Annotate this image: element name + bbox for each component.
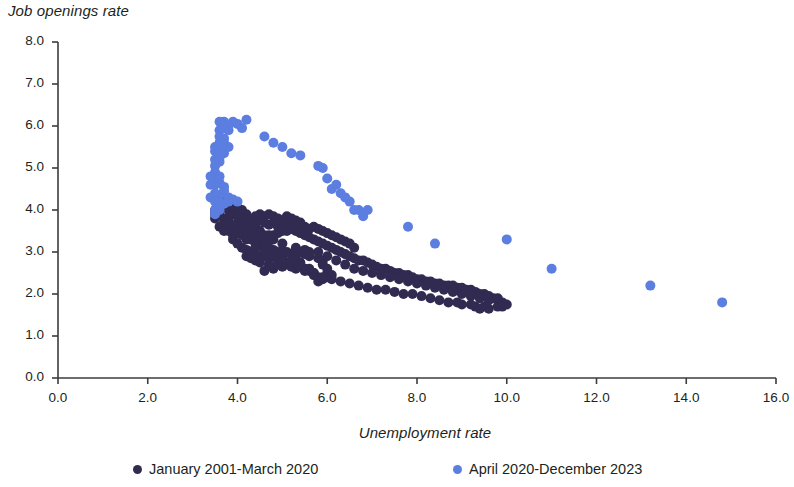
- data-point: [282, 211, 292, 221]
- legend: January 2001-March 2020 April 2020-Decem…: [0, 461, 794, 485]
- data-point: [717, 297, 727, 307]
- data-point: [331, 255, 341, 265]
- x-tick-label: 12.0: [572, 390, 622, 405]
- data-point: [394, 274, 404, 284]
- data-point: [340, 260, 350, 270]
- y-tick-label: 8.0: [10, 33, 44, 48]
- data-point: [233, 197, 243, 207]
- data-point: [277, 253, 287, 263]
- data-point: [268, 251, 278, 261]
- axis-ticks: [52, 42, 776, 384]
- data-point: [421, 281, 431, 291]
- data-point: [645, 281, 655, 291]
- data-point: [313, 161, 323, 171]
- plot-area: [0, 0, 794, 487]
- legend-label-historical: January 2001-March 2020: [149, 461, 318, 477]
- y-tick-label: 5.0: [10, 159, 44, 174]
- x-tick-label: 14.0: [661, 390, 711, 405]
- data-point: [295, 150, 305, 160]
- data-point: [412, 279, 422, 289]
- x-axis-title: Unemployment rate: [0, 424, 794, 441]
- data-point: [224, 142, 234, 152]
- y-tick-label: 6.0: [10, 117, 44, 132]
- data-point: [322, 174, 332, 184]
- data-point: [259, 132, 269, 142]
- data-point: [457, 289, 467, 299]
- data-point: [309, 268, 319, 278]
- data-point: [381, 285, 391, 295]
- data-point: [376, 270, 386, 280]
- data-point: [390, 287, 400, 297]
- x-tick-label: 0.0: [33, 390, 83, 405]
- data-point: [434, 295, 444, 305]
- data-point: [448, 287, 458, 297]
- legend-item-pandemic[interactable]: April 2020-December 2023: [453, 461, 642, 477]
- data-point: [443, 297, 453, 307]
- series-1: [206, 115, 728, 308]
- data-point: [345, 279, 355, 289]
- data-point: [466, 291, 476, 301]
- data-point: [336, 276, 346, 286]
- data-point: [416, 291, 426, 301]
- data-point: [430, 283, 440, 293]
- data-point: [363, 283, 373, 293]
- data-point: [268, 138, 278, 148]
- data-point: [430, 239, 440, 249]
- data-point: [286, 148, 296, 158]
- data-point: [327, 274, 337, 284]
- data-point: [300, 266, 310, 276]
- data-point: [502, 234, 512, 244]
- data-point: [313, 247, 323, 257]
- data-point: [439, 285, 449, 295]
- data-point: [425, 293, 435, 303]
- axes: [58, 42, 776, 378]
- y-tick-label: 3.0: [10, 243, 44, 258]
- legend-swatch-pandemic: [453, 465, 462, 474]
- y-tick-label: 4.0: [10, 201, 44, 216]
- data-point: [399, 289, 409, 299]
- x-axis-title-text: Unemployment rate: [359, 424, 492, 441]
- x-tick-label: 16.0: [751, 390, 794, 405]
- data-point: [367, 268, 377, 278]
- legend-label-pandemic: April 2020-December 2023: [469, 461, 642, 477]
- data-point: [493, 293, 503, 303]
- data-point: [349, 243, 359, 253]
- data-point: [250, 243, 260, 253]
- data-point: [484, 295, 494, 305]
- x-tick-label: 2.0: [123, 390, 173, 405]
- data-point: [340, 192, 350, 202]
- x-tick-label: 4.0: [213, 390, 263, 405]
- y-tick-label: 7.0: [10, 75, 44, 90]
- y-tick-label: 0.0: [10, 369, 44, 384]
- x-tick-label: 8.0: [392, 390, 442, 405]
- data-point: [547, 264, 557, 274]
- y-tick-label: 2.0: [10, 285, 44, 300]
- beveridge-curve-chart: Job openings rate 0.01.02.03.04.05.06.07…: [0, 0, 794, 487]
- data-point: [385, 272, 395, 282]
- legend-item-historical[interactable]: January 2001-March 2020: [133, 461, 318, 477]
- data-points: [206, 115, 728, 314]
- x-tick-label: 6.0: [302, 390, 352, 405]
- y-tick-label: 1.0: [10, 327, 44, 342]
- data-point: [313, 224, 323, 234]
- x-tick-label: 10.0: [482, 390, 532, 405]
- data-point: [210, 155, 220, 165]
- data-point: [327, 184, 337, 194]
- data-point: [322, 251, 332, 261]
- data-point: [358, 266, 368, 276]
- data-point: [286, 255, 296, 265]
- data-point: [408, 289, 418, 299]
- data-point: [206, 180, 216, 190]
- data-point: [237, 213, 247, 223]
- data-point: [475, 293, 485, 303]
- data-point: [403, 276, 413, 286]
- legend-swatch-historical: [133, 465, 142, 474]
- data-point: [372, 285, 382, 295]
- data-point: [277, 142, 287, 152]
- data-point: [259, 245, 269, 255]
- data-point: [354, 281, 364, 291]
- data-point: [403, 222, 413, 232]
- data-point: [250, 211, 260, 221]
- data-point: [349, 264, 359, 274]
- data-point: [318, 272, 328, 282]
